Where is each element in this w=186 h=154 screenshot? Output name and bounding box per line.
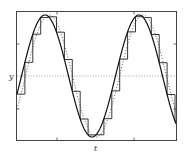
y-axis-label: y — [8, 72, 14, 81]
x-axis-label: t — [94, 144, 98, 153]
line-chart: y t — [0, 0, 186, 154]
